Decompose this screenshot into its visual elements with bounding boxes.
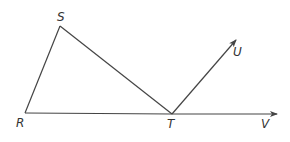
geometry-diagram: S R T U V (0, 0, 290, 142)
segment-rs (25, 26, 60, 113)
point-label-s: S (57, 10, 65, 24)
point-label-r: R (16, 116, 24, 130)
segment-rt (25, 113, 172, 114)
point-label-u: U (233, 45, 242, 59)
point-label-v: V (261, 117, 270, 131)
point-label-t: T (167, 117, 176, 131)
ray-tu (172, 40, 236, 114)
segment-st (60, 26, 172, 114)
